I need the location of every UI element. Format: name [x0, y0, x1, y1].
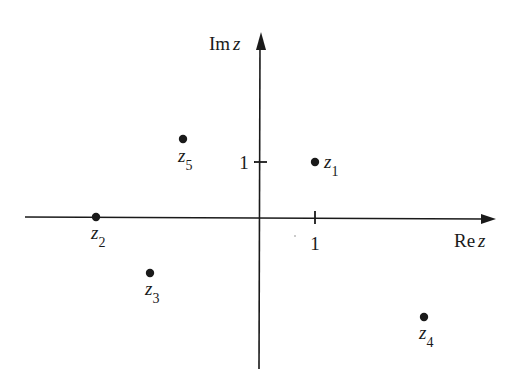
real-axis-arrow-icon — [481, 214, 496, 224]
point-label: z2 — [90, 222, 105, 250]
imaginary-axis-label: Imz — [209, 33, 241, 54]
point-dot-icon — [311, 158, 319, 166]
point-z1: z1 — [311, 151, 339, 179]
real-tick-label: 1 — [310, 233, 320, 254]
imaginary-axis-arrow-icon — [256, 32, 266, 50]
point-z3: z3 — [144, 269, 159, 306]
imaginary-axis — [256, 32, 266, 369]
point-label: z5 — [177, 145, 192, 173]
point-label: z4 — [418, 322, 433, 350]
point-z4: z4 — [418, 313, 433, 350]
complex-plane-diagram: 1 1 Rez Imz z1 z2 z3 z4 z5 — [0, 0, 515, 391]
point-label: z3 — [144, 278, 159, 306]
print-speck — [294, 235, 296, 237]
point-dot-icon — [179, 135, 187, 143]
imag-tick-label: 1 — [239, 152, 249, 173]
point-dot-icon — [420, 313, 428, 321]
point-dot-icon — [92, 213, 100, 221]
point-dot-icon — [146, 269, 154, 277]
real-axis-label: Rez — [454, 230, 486, 251]
point-z2: z2 — [90, 213, 105, 250]
point-label: z1 — [323, 151, 338, 179]
point-z5: z5 — [177, 135, 192, 173]
